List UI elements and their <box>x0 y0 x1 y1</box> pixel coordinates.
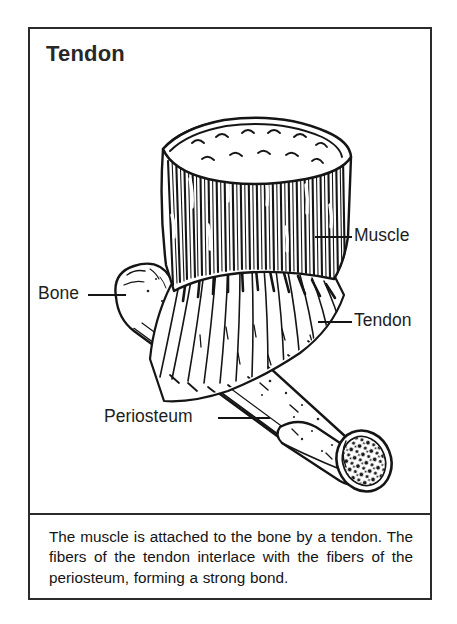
label-bone: Bone <box>38 285 79 303</box>
label-muscle: Muscle <box>354 227 409 245</box>
figure-card: Tendon <box>28 27 432 600</box>
caption-divider <box>30 513 430 515</box>
label-periosteum: Periosteum <box>104 408 193 426</box>
muscle-belly <box>162 118 351 291</box>
figure-caption: The muscle is attached to the bone by a … <box>49 527 413 588</box>
anatomy-illustration: Muscle Tendon Bone Periosteum <box>30 29 430 513</box>
tendon-anatomy-drawing <box>30 29 430 513</box>
label-tendon: Tendon <box>354 312 411 330</box>
